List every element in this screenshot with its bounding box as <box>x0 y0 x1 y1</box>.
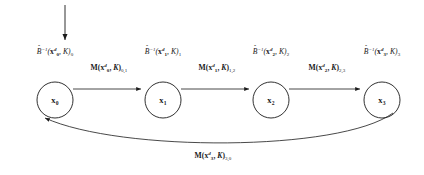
diagram-graphics <box>0 0 424 175</box>
node-circle-x2[interactable] <box>253 82 289 118</box>
node-circle-x1[interactable] <box>145 82 181 118</box>
node-circle-x0[interactable] <box>37 82 73 118</box>
node-circle-x3[interactable] <box>364 82 400 118</box>
diagram-canvas: x0 x1 x2 x3 ˆB−1(xd0, K)0 ˆB−1(xd1, K)1 … <box>0 0 424 175</box>
edge-x3-x0-feedback <box>45 113 393 143</box>
